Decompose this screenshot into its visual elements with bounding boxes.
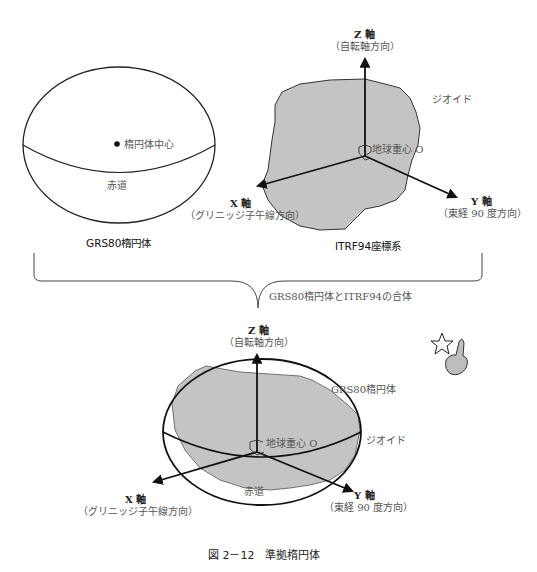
y-axis-sublabel: （東経 90 度方向）	[438, 207, 527, 219]
geoid-label-merged: ジオイド	[366, 435, 406, 446]
x-axis-label-merged: X 軸	[125, 493, 146, 505]
z-axis-label: Z 軸	[354, 28, 375, 40]
z-axis-label-merged: Z 軸	[248, 324, 269, 336]
ellipsoid-center-dot	[114, 141, 120, 147]
grs80-title: GRS80楕円体	[86, 237, 152, 249]
diagram-canvas: 楕円体中心 赤道 GRS80楕円体 Z 軸 （自転軸方向） ジオイド 地球重心 …	[0, 0, 537, 572]
itrf94-diagram: Z 軸 （自転軸方向） ジオイド 地球重心 O X 軸 （グリニッジ子午線方向）…	[185, 28, 527, 252]
equator-label: 赤道	[107, 179, 127, 191]
star-icon	[431, 333, 453, 354]
z-axis-sublabel-merged: （自転軸方向）	[224, 336, 294, 348]
y-axis-sublabel-merged: （東経 90 度方向）	[324, 501, 413, 513]
grs80-ellipsoid-diagram: 楕円体中心 赤道 GRS80楕円体	[23, 67, 215, 249]
figure-caption: 図 2－12 準拠楕円体	[208, 548, 321, 562]
geoid-label: ジオイド	[432, 94, 472, 105]
y-axis-label-merged: Y 軸	[353, 489, 375, 501]
brace-label: GRS80楕円体とITRF94の合体	[269, 290, 412, 302]
x-axis-sublabel-merged: （グリニッジ子午線方向）	[78, 505, 198, 517]
x-axis-sublabel: （グリニッジ子午線方向）	[185, 209, 305, 221]
z-axis-sublabel: （自転軸方向）	[330, 40, 400, 52]
ellipsoid-center-label: 楕円体中心	[124, 138, 174, 150]
origin-label-merged: 地球重心 O	[266, 437, 317, 449]
brace-line	[34, 253, 482, 308]
merge-brace: GRS80楕円体とITRF94の合体	[34, 253, 482, 308]
ellipsoid-label-merged: GRS80楕円体	[331, 383, 396, 395]
pointing-hand-star-icon	[431, 333, 467, 375]
y-axis-label: Y 軸	[470, 195, 492, 207]
origin-label: 地球重心 O	[372, 143, 423, 155]
equator-label-merged: 赤道	[244, 485, 264, 497]
x-axis-label: X 軸	[230, 197, 251, 209]
itrf94-title: ITRF94座標系	[335, 240, 401, 252]
merged-diagram: Z 軸 （自転軸方向） GRS80楕円体 地球重心 O ジオイド 赤道 X 軸 …	[78, 324, 413, 517]
